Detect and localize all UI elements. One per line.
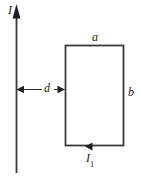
- physics-diagram: I a b d I1: [0, 0, 141, 179]
- wire-current-label: I: [8, 4, 12, 16]
- loop-rectangle: [66, 46, 124, 146]
- separation-label: d: [44, 82, 50, 94]
- loop-width-label: a: [92, 31, 98, 43]
- loop-current-subscript: 1: [90, 160, 94, 169]
- loop-current-arrowhead-icon: [85, 143, 93, 151]
- dimension-arrowhead-right-icon: [58, 86, 66, 93]
- loop-height-label: b: [128, 86, 134, 98]
- diagram-canvas: [0, 0, 141, 179]
- wire-arrowhead-icon: [13, 4, 21, 19]
- loop-current-label: I1: [86, 152, 94, 167]
- dimension-arrowhead-left-icon: [17, 86, 25, 93]
